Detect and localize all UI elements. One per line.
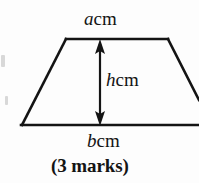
label-height-unit: cm xyxy=(116,69,139,90)
label-top-side: acm xyxy=(84,9,117,28)
height-arrow xyxy=(95,39,105,126)
page-edge-artifact-upper xyxy=(1,55,5,67)
label-height-variable: h xyxy=(106,69,116,90)
label-bottom-side: bcm xyxy=(87,131,120,150)
marks-allocation: (3 marks) xyxy=(51,156,129,175)
label-top-side-unit: cm xyxy=(94,8,117,29)
label-top-side-variable: a xyxy=(84,8,94,29)
label-height: hcm xyxy=(106,70,139,89)
trapezium-right-slant xyxy=(168,39,199,100)
exam-figure-page: acm hcm bcm (3 marks) xyxy=(0,0,199,183)
trapezium-left-slant xyxy=(22,39,66,125)
label-bottom-side-unit: cm xyxy=(97,130,120,151)
page-edge-artifact-lower xyxy=(5,96,8,105)
label-bottom-side-variable: b xyxy=(87,130,97,151)
